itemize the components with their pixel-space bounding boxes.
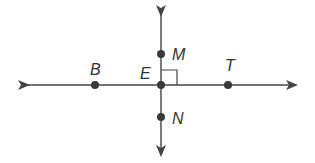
perpendicular-lines-figure: B E T M N	[0, 0, 315, 163]
label-M: M	[172, 46, 186, 63]
point-B	[91, 81, 99, 89]
label-T: T	[225, 57, 236, 74]
geometry-diagram: B E T M N	[0, 0, 315, 163]
label-E: E	[140, 65, 151, 82]
point-M	[157, 50, 165, 58]
point-T	[224, 81, 232, 89]
point-N	[157, 113, 165, 121]
label-N: N	[172, 110, 184, 127]
label-B: B	[90, 61, 101, 78]
point-E	[157, 81, 165, 89]
